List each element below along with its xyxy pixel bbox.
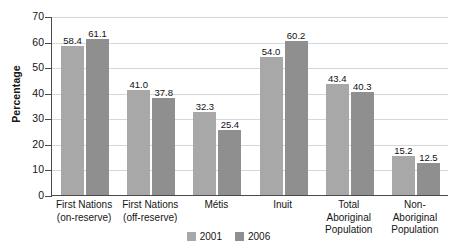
y-axis-tick [45,170,52,171]
bar-2006-3 [285,41,308,195]
bar-2006-4 [351,92,374,195]
bar-value-label: 12.5 [411,152,446,163]
y-axis-tick-label: 30 [18,112,44,124]
gridline [52,119,448,120]
y-axis-tick [45,94,52,95]
legend-label-2001: 2001 [200,231,222,242]
legend-swatch-2006 [235,232,244,241]
gridline [52,43,448,44]
legend-label-2006: 2006 [248,231,270,242]
bar-value-label: 40.3 [345,81,380,92]
bar-2006-1 [152,98,175,195]
bar-value-label: 54.0 [254,46,289,57]
y-axis-tick-label: 60 [18,36,44,48]
plot-area: 706050403020100 58.461.141.037.832.325.4… [51,17,448,196]
bar-2001-3 [260,57,283,195]
gridline [52,17,448,18]
y-axis-tick-label: 10 [18,163,44,175]
gridline [52,170,448,171]
y-axis-tick-label: 20 [18,138,44,150]
y-axis-tick [45,145,52,146]
y-axis-tick-label: 40 [18,87,44,99]
bar-2001-4 [326,84,349,195]
gridline [52,68,448,69]
bar-value-label: 37.8 [146,87,181,98]
bar-value-label: 60.2 [279,30,314,41]
legend-swatch-2001 [187,232,196,241]
bar-2006-2 [218,130,241,195]
y-axis-tick [45,68,52,69]
y-axis-tick [45,17,52,18]
bar-2006-0 [86,39,109,195]
y-axis-tick [45,196,52,197]
legend-item-2006: 2006 [235,231,270,242]
bar-chart: Percentage 706050403020100 58.461.141.03… [0,0,457,249]
legend-item-2001: 2001 [187,231,222,242]
y-axis-tick-label: 50 [18,61,44,73]
y-axis-tick [45,43,52,44]
bar-2001-1 [127,90,150,195]
bar-2006-5 [417,163,440,195]
bar-2001-0 [61,46,84,195]
bar-value-label: 61.1 [80,28,115,39]
y-axis-tick-label: 0 [18,189,44,201]
gridline [52,94,448,95]
y-axis-tick-label: 70 [18,10,44,22]
y-axis-tick [45,119,52,120]
chart-legend: 20012006 [0,231,457,242]
bar-value-label: 25.4 [212,119,247,130]
bar-value-label: 32.3 [187,101,222,112]
